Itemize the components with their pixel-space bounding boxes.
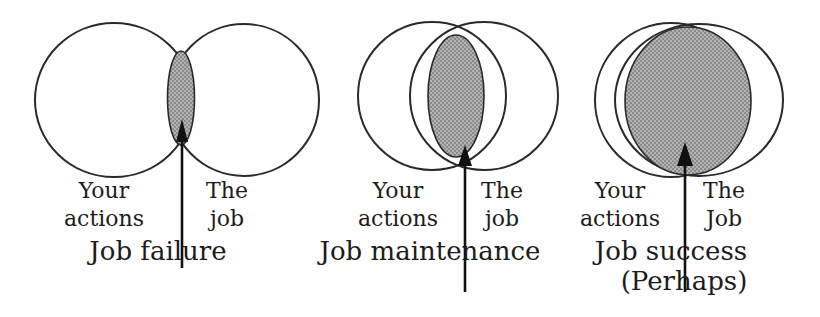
overlap-region-medium — [428, 35, 484, 157]
label-line: Your — [64, 177, 144, 205]
venn-figure: Your actions The job Job failure Your ac… — [0, 0, 820, 317]
label-line: The — [703, 177, 745, 205]
label-line: actions — [358, 205, 438, 233]
job-maintenance-right-label: The job — [481, 177, 523, 233]
label-line: Your — [580, 177, 660, 205]
label-line: job — [206, 205, 248, 233]
job-maintenance-left-label: Your actions — [358, 177, 438, 233]
label-line: Your — [358, 177, 438, 205]
job-maintenance-caption: Job maintenance — [320, 236, 541, 266]
job-failure-left-label: Your actions — [64, 177, 144, 233]
job-success-caption-line2: (Perhaps) — [621, 266, 748, 296]
label-line: Job — [703, 205, 745, 233]
job-success-left-label: Your actions — [580, 177, 660, 233]
label-line: job — [481, 205, 523, 233]
label-line: actions — [64, 205, 144, 233]
job-failure-right-label: The job — [206, 177, 248, 233]
label-line: The — [481, 177, 523, 205]
job-success-caption-line1: Job success — [595, 236, 747, 266]
label-line: actions — [580, 205, 660, 233]
job-failure-caption: Job failure — [89, 236, 226, 266]
label-line: The — [206, 177, 248, 205]
job-success-right-label: The Job — [703, 177, 745, 233]
